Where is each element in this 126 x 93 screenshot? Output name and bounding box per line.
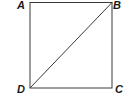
diagonal-db: [30, 3, 112, 89]
vertex-label-a: A: [16, 0, 25, 11]
square-diagram: A B C D: [0, 0, 126, 93]
vertex-label-d: D: [17, 83, 25, 93]
vertex-label-c: C: [115, 83, 124, 93]
vertex-label-b: B: [113, 0, 121, 11]
